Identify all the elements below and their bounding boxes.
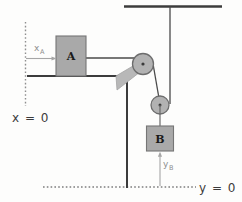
y-origin-label: y = 0 <box>199 181 236 195</box>
fixed-pulley-axle <box>141 62 144 65</box>
yb-label-subscript: B <box>169 164 173 172</box>
x-origin-label: x = 0 <box>12 111 49 125</box>
block-b-label: B <box>155 133 164 146</box>
yb-dimension-arrowhead <box>158 152 162 157</box>
xa-label-subscript: A <box>40 48 45 56</box>
diagram-canvas: A B x A y B x = 0 y = 0 <box>0 0 242 202</box>
block-a-label: A <box>66 50 76 63</box>
pulley-diagram-figure: A B x A y B x = 0 y = 0 <box>0 0 242 202</box>
